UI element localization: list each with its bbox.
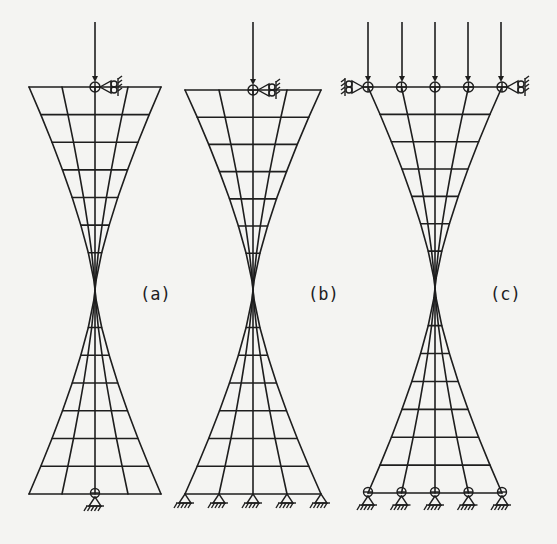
mesh-column-curve (402, 87, 436, 493)
hinged-pin-support-icon (84, 489, 104, 512)
mesh-column-curve (253, 90, 287, 494)
panel-c (341, 22, 529, 510)
load-arrowhead-icon (399, 76, 405, 82)
mesh-column-curve (368, 87, 435, 493)
loads (92, 22, 98, 82)
hinged-pin-support-icon (424, 488, 444, 511)
load-arrowhead-icon (498, 76, 504, 82)
mesh-column-curve (185, 90, 253, 494)
panel-label-a: (a) (140, 284, 171, 304)
mesh-column-curve (29, 87, 95, 494)
roller-support-icon (341, 78, 363, 96)
mesh-column-curve (62, 87, 95, 494)
loads (365, 22, 504, 82)
roller-support-icon (100, 76, 122, 96)
pin-support-icon (276, 494, 296, 508)
hourglass-mesh-figure: (a) (b) (c) (0, 0, 557, 544)
loads (250, 22, 256, 85)
panel-label-c: (c) (490, 284, 521, 304)
load-arrowhead-icon (465, 76, 471, 82)
pin-support-icon (242, 494, 262, 508)
load-arrowhead-icon (432, 76, 438, 82)
load-arrowhead-icon (250, 79, 256, 85)
panel-a (29, 22, 161, 511)
load-arrowhead-icon (365, 76, 371, 82)
mesh-column-curve (219, 90, 253, 494)
pin-support-icon (310, 494, 330, 508)
mesh-column-curve (435, 87, 469, 493)
mesh-grid (185, 90, 321, 494)
pin-support-icon (174, 494, 194, 508)
roller-support-icon (507, 76, 529, 96)
pin-support-icon (208, 494, 228, 508)
mesh-column-curve (95, 87, 128, 494)
hinged-pin-support-icon (357, 488, 377, 511)
panel-label-b: (b) (308, 284, 339, 304)
hinged-pin-support-icon (391, 488, 411, 511)
load-arrowhead-icon (92, 76, 98, 82)
panel-b (174, 22, 330, 508)
roller-support-icon (258, 79, 280, 99)
mesh-grid (362, 87, 508, 493)
